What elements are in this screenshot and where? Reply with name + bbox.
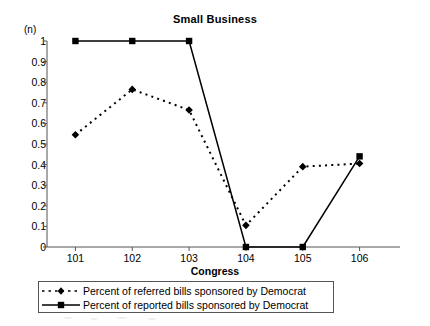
legend-item-reported: Percent of reported bills sponsored by D… bbox=[39, 297, 333, 312]
legend-item-referred: Percent of referred bills sponsored by D… bbox=[39, 283, 333, 298]
legend-marker-square-solid bbox=[39, 298, 83, 312]
x-axis-title: Congress bbox=[0, 265, 430, 277]
chart-figure: Small Business (n) 00.10.20.30.40.50.60.… bbox=[0, 0, 430, 326]
data-point-square bbox=[243, 244, 249, 250]
x-tick-label: 103 bbox=[169, 252, 209, 264]
data-point-diamond bbox=[72, 131, 80, 139]
data-point-square bbox=[129, 38, 135, 44]
data-point-square bbox=[356, 153, 362, 159]
data-point-diamond bbox=[185, 106, 193, 114]
data-point-diamond bbox=[242, 222, 250, 230]
data-point-square bbox=[300, 244, 306, 250]
plot-area bbox=[0, 0, 430, 326]
legend-marker-diamond-dotted bbox=[39, 284, 83, 298]
legend-label-referred: Percent of referred bills sponsored by D… bbox=[83, 285, 306, 297]
data-point-square bbox=[186, 38, 192, 44]
data-point-diamond bbox=[299, 163, 307, 171]
chart-legend: Percent of referred bills sponsored by D… bbox=[38, 281, 334, 313]
data-point-square bbox=[72, 38, 78, 44]
x-tick-label: 105 bbox=[283, 252, 323, 264]
x-tick-label: 104 bbox=[226, 252, 266, 264]
scan-artifact bbox=[60, 316, 170, 321]
series-line-reported bbox=[75, 41, 359, 247]
legend-label-reported: Percent of reported bills sponsored by D… bbox=[83, 299, 308, 311]
series-line-referred bbox=[75, 89, 359, 225]
x-tick-label: 101 bbox=[55, 252, 95, 264]
x-tick-label: 102 bbox=[112, 252, 152, 264]
x-tick-label: 106 bbox=[340, 252, 380, 264]
